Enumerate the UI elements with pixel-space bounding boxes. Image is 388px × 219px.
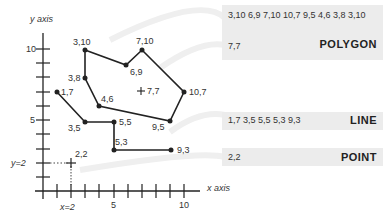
point-label: 2,2 xyxy=(75,149,88,159)
x-tick-5: 5 xyxy=(111,200,116,210)
polygon-vertex-label: 3,8 xyxy=(68,73,81,83)
point-marker-icon xyxy=(66,158,76,168)
polygon-vertex-label: 3,10 xyxy=(73,37,91,47)
y-axis-label: y axis xyxy=(29,14,54,24)
x-guide-label: x=2 xyxy=(59,202,75,212)
coordinate-plot: y axis x axis 10 5 5 10 y=2 x=2 2,2 3,10… xyxy=(0,0,388,219)
y-guide-label: y=2 xyxy=(10,158,26,168)
line-vertex-label: 3,5 xyxy=(68,123,81,133)
polygon-vertex-label: 9,5 xyxy=(152,122,165,132)
line-vertex-label: 1,7 xyxy=(61,87,74,97)
polygon-vertex-label: 6,9 xyxy=(130,67,143,77)
polygon-vertex-label: 4,6 xyxy=(101,94,114,104)
line-vertex-label: 5,5 xyxy=(119,117,132,127)
y-tick-10: 10 xyxy=(26,44,36,54)
x-tick-10: 10 xyxy=(179,200,189,210)
line-vertex-label: 9,3 xyxy=(177,145,190,155)
polygon-shape xyxy=(85,50,184,121)
polygon-vertices xyxy=(83,48,187,124)
polygon-vertex-label: 7,10 xyxy=(136,36,154,46)
x-axis-label: x axis xyxy=(206,183,231,193)
centroid-marker-icon xyxy=(137,87,145,95)
centroid-label: 7,7 xyxy=(147,86,160,96)
polygon-vertex-label: 10,7 xyxy=(189,87,207,97)
y-tick-5: 5 xyxy=(30,115,35,125)
line-vertex-label: 5,3 xyxy=(115,137,128,147)
